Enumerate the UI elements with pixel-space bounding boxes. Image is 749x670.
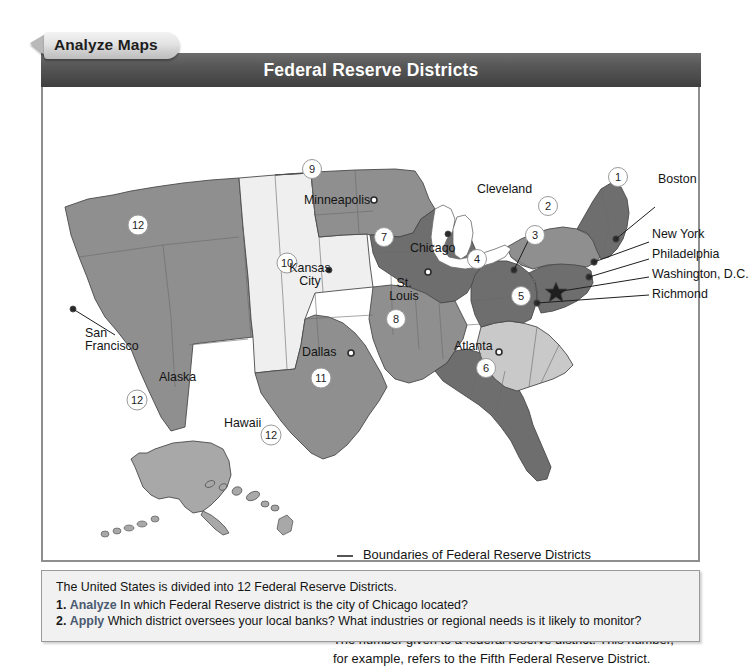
svg-text:1: 1 (615, 171, 621, 183)
city-dot-atlanta (496, 349, 502, 355)
district-badge-12-west: 12 (128, 215, 148, 235)
tab-label: Analyze Maps (54, 36, 182, 54)
question-1-number: 1. (56, 598, 66, 612)
map-label-new-york: New York (652, 228, 704, 241)
district-12-region (65, 178, 253, 431)
map-label-kansas-city: Kansas City (281, 262, 339, 288)
svg-text:12: 12 (132, 219, 144, 231)
leader-line-philadelphia (589, 259, 649, 277)
question-1-verb: Analyze (70, 598, 117, 612)
district-badge-12-hawaii: 12 (261, 425, 281, 445)
district-badge-1: 1 (609, 168, 628, 187)
map-label-boston: Boston (658, 173, 697, 186)
district-badge-8: 8 (387, 310, 406, 329)
svg-text:8: 8 (393, 313, 399, 325)
question-2-verb: Apply (70, 614, 104, 628)
svg-text:12: 12 (131, 394, 143, 406)
svg-text:2: 2 (545, 200, 551, 212)
question-1-text: In which Federal Reserve district is the… (120, 598, 468, 612)
alaska-inset (131, 441, 231, 513)
svg-text:3: 3 (532, 229, 538, 241)
district-badge-11: 11 (311, 368, 331, 388)
page-title: Federal Reserve Districts (41, 60, 701, 81)
analyze-maps-tab[interactable]: Analyze Maps (30, 32, 180, 59)
map-label-chicago: Chicago (410, 242, 455, 255)
question-2-text: Which district oversees your local banks… (108, 614, 642, 628)
city-dot-dallas (348, 350, 354, 356)
map-label-dallas: Dallas (302, 346, 336, 359)
svg-text:9: 9 (309, 163, 315, 175)
legend-label-district-number-line2: for example, refers to the Fifth Federal… (333, 649, 693, 668)
map-label-st-louis: St. Louis (381, 277, 427, 303)
district-badge-5: 5 (512, 287, 531, 306)
question-item-2: 2. Apply Which district oversees your lo… (56, 614, 685, 628)
svg-text:7: 7 (381, 231, 387, 243)
line-icon (333, 545, 357, 564)
question-intro: The United States is divided into 12 Fed… (56, 580, 685, 594)
united-states-federal-reserve-map: 1 2 3 4 5 6 7 8 9 10 11 12 12 12 (43, 87, 698, 558)
map-label-cleveland: Cleveland (477, 183, 532, 196)
map-panel: 1 2 3 4 5 6 7 8 9 10 11 12 12 12 San Fra… (41, 87, 700, 562)
map-label-alaska: Alaska (159, 371, 196, 384)
map-label-san-francisco: San Francisco (85, 327, 139, 353)
svg-text:12: 12 (265, 429, 277, 441)
map-label-hawaii: Hawaii (224, 417, 261, 430)
svg-text:5: 5 (518, 290, 524, 302)
map-label-philadelphia: Philadelphia (652, 248, 720, 261)
district-badge-4: 4 (468, 250, 487, 269)
district-badge-2: 2 (539, 197, 558, 216)
district-badge-7: 7 (375, 228, 394, 247)
district-badge-9: 9 (303, 160, 322, 179)
question-box: The United States is divided into 12 Fed… (41, 570, 700, 642)
district-badge-3: 3 (526, 226, 545, 245)
map-label-richmond: Richmond (652, 288, 708, 301)
question-item-1: 1. Analyze In which Federal Reserve dist… (56, 598, 685, 612)
svg-text:4: 4 (474, 253, 480, 265)
map-label-atlanta: Atlanta (454, 340, 493, 353)
legend-item-boundaries: Boundaries of Federal Reserve Districts (333, 545, 693, 565)
city-dot-minneapolis (371, 197, 377, 203)
district-badge-12-alaska: 12 (127, 390, 147, 410)
svg-text:6: 6 (483, 362, 489, 374)
city-dot-st-louis (425, 269, 431, 275)
aleutian-islands (101, 516, 159, 537)
legend-label-boundaries: Boundaries of Federal Reserve Districts (363, 547, 591, 562)
alaska-panhandle (201, 511, 229, 535)
map-label-washington-dc: Washington, D.C. (652, 268, 749, 281)
question-2-number: 2. (56, 614, 66, 628)
map-label-minneapolis: Minneapolis (304, 194, 370, 207)
district-badge-6: 6 (477, 359, 496, 378)
city-dot-chicago (445, 231, 451, 237)
svg-text:11: 11 (315, 372, 326, 384)
